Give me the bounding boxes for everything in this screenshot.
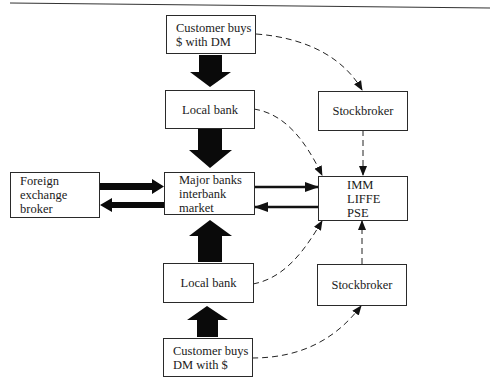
node-line: Customer buys [173,344,252,358]
node-stockbroker-bottom: Stockbroker [317,264,407,306]
arrow-fx-to-major-banks [99,179,164,194]
node-line: IMM [347,178,407,192]
dashed-customer-top-to-stockbroker [256,34,362,90]
arrow-major-banks-to-fx [100,198,164,212]
node-line: Customer buys [176,21,255,35]
node-label: Stockbroker [331,278,392,292]
node-foreign-exchange-broker: Foreign exchange broker [10,172,100,218]
node-line: interbank [179,187,254,201]
dashed-local-bank-to-exchanges [254,109,322,175]
node-line: exchange [20,188,99,202]
node-line: market [179,201,254,215]
node-line: $ with DM [176,35,255,49]
node-label: Stockbroker [332,104,393,118]
node-stockbroker-top: Stockbroker [318,91,408,131]
node-line: DM with $ [173,358,252,372]
arrow-local-bank-bottom-to-major-banks [189,220,232,262]
node-major-banks-interbank-market: Major banks interbank market [164,172,255,215]
node-line: LIFFE [347,192,407,206]
dashed-customer-bottom-to-stockbroker [252,306,361,358]
node-customer-buys-dollars: Customer buys $ with DM [166,15,256,54]
node-local-bank-top: Local bank [165,90,255,129]
node-customer-buys-dm: Customer buys DM with $ [163,338,253,377]
node-line: broker [20,202,99,216]
arrow-customer-bottom-to-local-bank [187,306,228,337]
top-rule [10,3,490,8]
node-line: Foreign [20,174,99,188]
node-label: Local bank [182,103,238,117]
node-label: Local bank [181,276,237,290]
arrow-local-bank-to-major-banks [189,129,232,168]
node-local-bank-bottom: Local bank [163,263,254,303]
node-line: Major banks [179,173,254,187]
dashed-local-bank-bottom-to-exchanges [253,221,322,284]
node-line: PSE [347,206,407,220]
arrow-customer-top-to-local-bank [190,55,231,87]
node-exchanges-imm-liffe-pse: IMM LIFFE PSE [318,176,408,221]
